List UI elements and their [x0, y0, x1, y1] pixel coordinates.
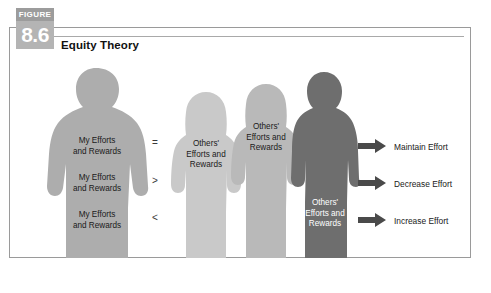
- header-divider: [54, 36, 464, 37]
- figure-badge-word: FIGURE: [16, 8, 54, 21]
- self-silhouette: [44, 68, 150, 258]
- other-silhouette-less: [290, 72, 360, 258]
- figure-title: Equity Theory: [61, 39, 139, 51]
- arrow-icon-increase: [358, 213, 386, 227]
- operator-less: <: [152, 212, 158, 223]
- figure-badge-number: 8.6: [16, 21, 54, 49]
- arrow-icon-maintain: [358, 139, 386, 153]
- operator-greater: >: [152, 175, 158, 186]
- outcome-label-decrease: Decrease Effort: [394, 179, 452, 189]
- figure-number-badge: FIGURE 8.6: [16, 8, 54, 49]
- outcome-label-increase: Increase Effort: [394, 216, 448, 226]
- arrow-icon-decrease: [358, 176, 386, 190]
- operator-equal: =: [152, 137, 158, 148]
- outcome-label-maintain: Maintain Effort: [394, 142, 448, 152]
- equity-theory-figure: FIGURE 8.6 Equity Theory My Efforts and …: [0, 0, 491, 293]
